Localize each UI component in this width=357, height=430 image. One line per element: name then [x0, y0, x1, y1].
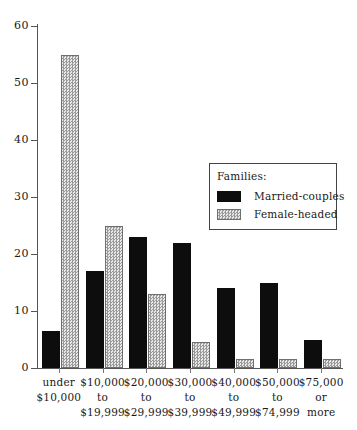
- legend-entry: Female-headed: [217, 205, 336, 223]
- legend-label: Married-couples: [254, 190, 345, 202]
- y-tick-label: 0: [1, 362, 29, 373]
- y-tick-label: 50: [1, 77, 29, 88]
- bar-married: [304, 340, 322, 369]
- bar-chart: 0102030405060 under$10,000$10,000to$19,9…: [0, 0, 357, 430]
- x-tick-mark: [321, 368, 322, 373]
- x-tick-mark: [146, 368, 147, 373]
- y-tick-label: 20: [1, 248, 29, 259]
- legend-swatch-female: [217, 209, 241, 220]
- bar-female: [236, 359, 254, 368]
- bar-group: [42, 26, 80, 368]
- y-tick-label: 30: [1, 191, 29, 202]
- legend-swatch-married: [217, 191, 241, 202]
- bar-female: [105, 226, 123, 369]
- x-tick-mark: [190, 368, 191, 373]
- bar-female: [61, 55, 79, 369]
- x-category-label-line: or: [289, 390, 353, 405]
- legend-label: Female-headed: [254, 208, 338, 220]
- legend-entry: Married-couples: [217, 187, 336, 205]
- x-category-label: $75,000ormore: [289, 375, 353, 420]
- bar-married: [86, 271, 104, 368]
- bar-married: [42, 331, 60, 368]
- legend: Families: Married-couplesFemale-headed: [209, 163, 337, 230]
- bar-married: [260, 283, 278, 369]
- bar-married: [217, 288, 235, 368]
- x-tick-mark: [277, 368, 278, 373]
- x-tick-mark: [103, 368, 104, 373]
- y-tick-label: 60: [1, 20, 29, 31]
- bar-female: [279, 359, 297, 368]
- legend-entries: Married-couplesFemale-headed: [217, 187, 336, 223]
- bar-married: [173, 243, 191, 368]
- bar-married: [129, 237, 147, 368]
- x-tick-mark: [234, 368, 235, 373]
- bar-female: [192, 342, 210, 368]
- bar-group: [129, 26, 167, 368]
- y-tick-label: 40: [1, 134, 29, 145]
- x-category-label-line: more: [289, 405, 353, 420]
- bar-female: [323, 359, 341, 368]
- x-category-label-line: $75,000: [289, 375, 353, 390]
- legend-title: Families:: [217, 170, 336, 183]
- y-tick-label: 10: [1, 305, 29, 316]
- bar-group: [173, 26, 211, 368]
- bar-female: [148, 294, 166, 368]
- x-tick-mark: [59, 368, 60, 373]
- bar-group: [86, 26, 124, 368]
